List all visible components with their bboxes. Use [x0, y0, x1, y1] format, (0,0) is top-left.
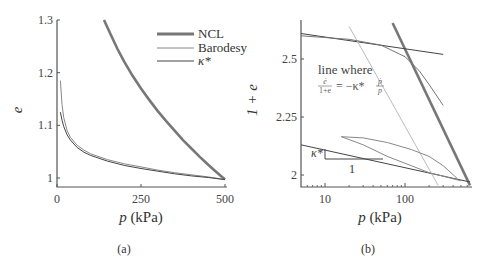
annotation-rhs-num: ṗ	[377, 77, 382, 86]
panel-a-ylabel: e	[9, 106, 25, 113]
panel-b-ytick-label: 2	[291, 168, 297, 182]
panel-a-legend: NCL Barodesy κ*	[157, 26, 248, 68]
panel-b-caption: (b)	[361, 242, 375, 256]
panel-a-xtick-label: 250	[132, 192, 150, 206]
panel-b-ytick-label: 2.5	[282, 52, 297, 66]
panel-a-xlabel-unit: (kPa)	[127, 209, 163, 226]
panel-b-series-ncl	[393, 23, 470, 185]
panel-a-series-barodesy	[60, 81, 225, 180]
legend-label-kappa: κ*	[198, 53, 211, 68]
panel-b-ytick-label: 2.25	[276, 110, 297, 124]
slope-triangle-one-label: 1	[349, 161, 356, 176]
annotation-rhs: = −κ*	[336, 79, 365, 93]
panel-a-xtick-label: 0	[54, 192, 60, 206]
panel-b-axes	[301, 20, 472, 187]
panel-b-xtick-label: 100	[396, 192, 414, 206]
annotation-frac-num: ė	[323, 77, 327, 86]
slope-triangle-kappa-label: κ*	[311, 146, 323, 160]
panel-b-xtick-label: 10	[319, 192, 331, 206]
panel-a-ytick-label: 1.2	[38, 66, 53, 80]
panel-b-ylabel: 1 + e	[244, 84, 260, 116]
panel-a-series-	[60, 112, 225, 179]
panel-b-xlabel-unit: (kPa)	[366, 209, 402, 226]
annotation-rhs-den: p	[377, 86, 382, 95]
panel-a-xlabel: p (kPa)	[118, 209, 163, 226]
panel-a-caption: (a)	[117, 242, 130, 256]
annotation-line-where: line where ė 1+e = −κ* ṗ p	[318, 62, 384, 95]
legend-label-ncl: NCL	[198, 26, 224, 41]
panel-a-ytick-label: 1.3	[38, 13, 53, 27]
figure: 025050011.11.21.3 e p (kPa) (a) NCL Baro…	[0, 0, 485, 268]
panel-a-ytick-label: 1.1	[38, 118, 53, 132]
panel-b: 1010022.252.5 1 + e p (kPa) (b) line whe…	[244, 20, 472, 256]
panel-a-xtick-label: 500	[216, 192, 234, 206]
slope-triangle: κ* 1	[311, 146, 383, 176]
panel-b-xlabel: p (kPa)	[357, 209, 402, 226]
panel-a: 025050011.11.21.3 e p (kPa) (a) NCL Baro…	[9, 13, 248, 256]
panel-a-ytick-label: 1	[47, 171, 53, 185]
annotation-text: line where	[318, 62, 373, 77]
panel-b-series-line-where-1-e-p	[349, 27, 438, 186]
annotation-frac-den: 1+e	[319, 86, 332, 95]
